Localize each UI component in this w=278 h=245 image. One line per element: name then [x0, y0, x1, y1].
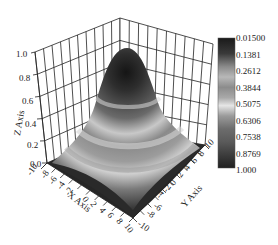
colorbar-label: 0.3844	[236, 83, 261, 93]
colorbar-label: 0.7538	[236, 132, 261, 142]
colorbar: 0.01500 0.1381 0.2612 0.3844 0.5075 0.63…	[218, 33, 266, 175]
colorbar-label: 1.000	[236, 165, 257, 175]
z-tick-0.8: 0.8	[19, 73, 31, 83]
y-tick: 8	[195, 148, 206, 158]
z-tick-1.0: 1.0	[16, 49, 28, 59]
colorbar-gradient	[218, 38, 235, 168]
y-axis-label: Y Axis	[179, 183, 204, 209]
z-tick-0.6: 0.6	[22, 96, 34, 106]
x-tick: 8	[114, 216, 125, 226]
y-tick: -10	[136, 218, 152, 233]
colorbar-label: 0.5075	[236, 99, 261, 109]
x-tick: 4	[97, 205, 108, 215]
z-tick-0.4: 0.4	[25, 119, 37, 129]
surface-plot: 1.0 0.8 0.6 0.4 0.2 0.0 Z Axis -10 -8 -6…	[0, 0, 278, 245]
z-tick-0.2: 0.2	[27, 140, 38, 150]
colorbar-label: 0.01500	[236, 33, 266, 43]
x-tick: 6	[105, 210, 116, 220]
x-tick: 10	[122, 221, 136, 235]
colorbar-label: 0.2612	[236, 66, 261, 76]
x-axis-label: X Axis	[66, 190, 93, 214]
colorbar-label: 0.8769	[236, 149, 261, 159]
colorbar-label: 0.6306	[236, 116, 261, 126]
colorbar-label: 0.1381	[236, 50, 261, 60]
z-axis-label: Z Axis	[12, 109, 26, 136]
